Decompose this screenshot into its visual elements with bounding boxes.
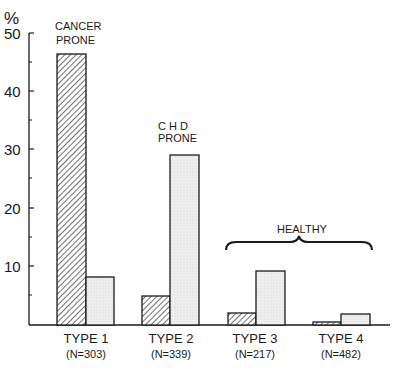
y-tick-40: 40 [4, 83, 21, 100]
bar-type2-chd [170, 155, 199, 325]
y-tick-50: 50 [4, 25, 21, 42]
category-label-type2: TYPE 2 [149, 331, 194, 346]
bar-type1-chd [86, 277, 114, 325]
category-n-type1: (N=303) [66, 348, 106, 360]
bar-type4-chd [341, 314, 370, 325]
annotation-cancer-line1: CANCER [55, 20, 102, 32]
annotation-chd-line2: PRONE [158, 132, 197, 144]
annotation-healthy: HEALTHY [277, 223, 328, 235]
category-label-type1: TYPE 1 [64, 331, 109, 346]
y-tick-10: 10 [4, 258, 21, 275]
annotations: CANCER PRONE C H D PRONE HEALTHY [55, 20, 372, 250]
category-n-type3: (N=217) [235, 348, 275, 360]
y-tick-30: 30 [4, 141, 21, 158]
annotation-chd-line1: C H D [158, 120, 188, 132]
x-axis-labels: TYPE 1 (N=303) TYPE 2 (N=339) TYPE 3 (N=… [64, 331, 364, 360]
category-n-type4: (N=482) [321, 348, 361, 360]
bar-type4-cancer [313, 322, 341, 325]
category-label-type3: TYPE 3 [233, 331, 278, 346]
category-label-type4: TYPE 4 [319, 331, 364, 346]
y-tick-20: 20 [4, 200, 21, 217]
healthy-brace-icon [226, 236, 372, 250]
bars [57, 54, 370, 325]
bar-type3-chd [256, 271, 285, 325]
annotation-cancer-line2: PRONE [56, 34, 95, 46]
bar-type3-cancer [228, 313, 256, 325]
bar-type2-cancer [142, 296, 170, 325]
bar-chart: % 50 40 30 20 10 CANCER PRONE C H D PRON… [0, 0, 396, 368]
category-n-type2: (N=339) [151, 348, 191, 360]
bar-type1-cancer [57, 54, 86, 325]
